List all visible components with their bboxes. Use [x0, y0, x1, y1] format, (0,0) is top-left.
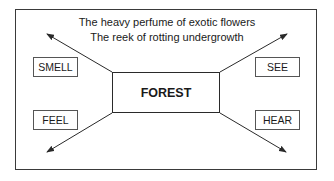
sense-box-smell: SMELL — [33, 57, 78, 77]
caption-line-2: The reek of rotting undergrowth — [0, 31, 334, 43]
sense-box-feel: FEEL — [33, 110, 78, 130]
sense-box-hear: HEAR — [255, 110, 300, 130]
sense-box-see: SEE — [255, 57, 300, 77]
center-node-forest: FOREST — [112, 72, 220, 113]
caption-line-1: The heavy perfume of exotic flowers — [0, 16, 334, 28]
